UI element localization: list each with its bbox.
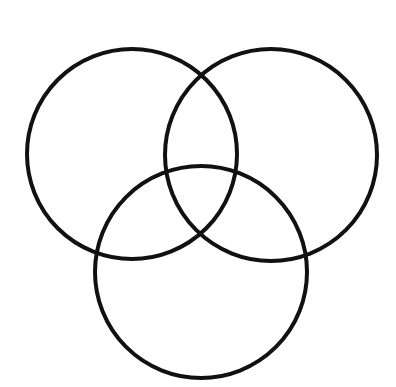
venn-svg [0,0,396,387]
venn-diagram [0,0,396,387]
circle-right [165,49,377,261]
circle-left [27,49,237,259]
circle-bottom [95,166,307,378]
